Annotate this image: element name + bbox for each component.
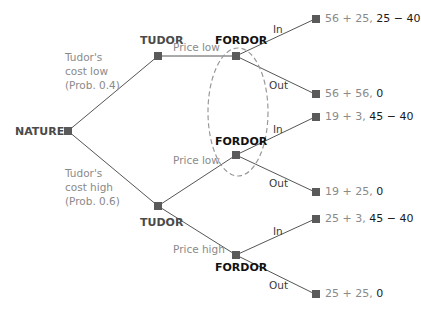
label-fordor-3: FORDOR [215, 262, 267, 273]
payoff-tudor: 56 + 25, [325, 12, 373, 25]
node-tudor-low [154, 52, 162, 60]
payoff-2: 56 + 56, 0 [325, 88, 383, 99]
action-f1-in: In [273, 24, 283, 35]
payoff-tudor: 25 + 3, [325, 212, 366, 225]
terminal-node-1 [312, 15, 320, 23]
payoff-fordor: 45 − 40 [369, 212, 413, 225]
action-tudor-low-price-low: Price low [173, 42, 220, 53]
payoff-5: 25 + 3, 45 − 40 [325, 213, 413, 224]
payoff-tudor: 19 + 3, [325, 110, 366, 123]
action-tudor-high-price-low: Price low [173, 155, 220, 166]
terminal-node-5 [312, 215, 320, 223]
payoff-fordor: 25 − 40 [376, 12, 420, 25]
node-fordor-3 [232, 251, 240, 259]
payoff-tudor: 25 + 25, [325, 287, 373, 300]
label-fordor-1: FORDOR [215, 35, 267, 46]
terminal-node-3 [312, 113, 320, 121]
payoff-fordor: 0 [376, 87, 383, 100]
label-tudor-high: TUDOR [140, 217, 183, 228]
payoff-3: 19 + 3, 45 − 40 [325, 111, 413, 122]
action-f3-in: In [273, 226, 283, 237]
note-cost-high: Tudor's cost high (Prob. 0.6) [65, 166, 120, 208]
node-nature [64, 127, 72, 135]
label-nature: NATURE [15, 126, 64, 137]
label-fordor-2: FORDOR [215, 136, 267, 147]
node-fordor-2 [232, 151, 240, 159]
payoff-fordor: 45 − 40 [369, 110, 413, 123]
action-f2-in: In [273, 124, 283, 135]
payoff-1: 56 + 25, 25 − 40 [325, 13, 420, 24]
action-f2-out: Out [269, 178, 288, 189]
terminal-node-6 [312, 290, 320, 298]
action-f1-out: Out [269, 80, 288, 91]
node-fordor-1 [232, 52, 240, 60]
payoff-tudor: 19 + 25, [325, 185, 373, 198]
note-cost-low: Tudor's cost low (Prob. 0.4) [65, 50, 120, 92]
node-tudor-high [154, 202, 162, 210]
payoff-4: 19 + 25, 0 [325, 186, 383, 197]
terminal-node-2 [312, 90, 320, 98]
payoff-fordor: 0 [376, 287, 383, 300]
terminal-node-4 [312, 188, 320, 196]
payoff-tudor: 56 + 56, [325, 87, 373, 100]
payoff-fordor: 0 [376, 185, 383, 198]
payoff-6: 25 + 25, 0 [325, 288, 383, 299]
action-f3-out: Out [269, 280, 288, 291]
action-tudor-high-price-high: Price high [173, 244, 225, 255]
